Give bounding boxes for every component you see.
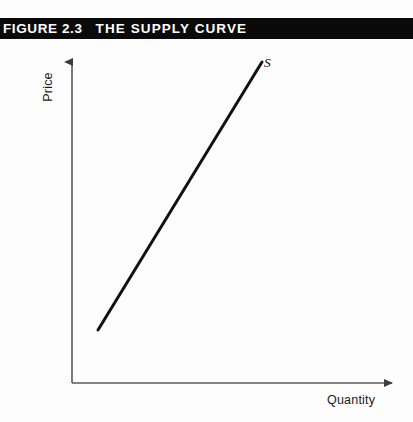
y-axis-label: Price (41, 72, 55, 101)
supply-curve-label: S (264, 55, 271, 71)
supply-curve-line (98, 62, 262, 330)
x-axis-label: Quantity (327, 393, 375, 407)
figure-container: FIGURE 2.3 THE SUPPLY CURVE Price Quanti… (0, 0, 413, 422)
plot-area (0, 0, 413, 422)
